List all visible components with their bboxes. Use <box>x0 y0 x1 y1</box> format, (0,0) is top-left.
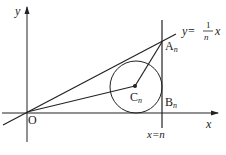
origin-label: O <box>28 113 37 127</box>
svg-text:y=: y= <box>181 24 195 38</box>
point-a-label: An <box>165 39 178 54</box>
svg-text:x: x <box>214 24 221 38</box>
y-axis-label: y <box>14 4 21 18</box>
svg-text:1: 1 <box>206 20 211 30</box>
vertical-line-equation-label: x=n <box>146 128 165 140</box>
center-point-c <box>133 84 137 88</box>
segment-o-c <box>27 86 135 112</box>
diagram-canvas: y x O An Bn Cn y= 1 n x x=n <box>0 0 226 155</box>
geometry-diagram: y x O An Bn Cn y= 1 n x x=n <box>0 0 226 155</box>
point-b-label: Bn <box>165 95 177 110</box>
svg-text:n: n <box>204 32 209 42</box>
point-c-label: Cn <box>130 90 142 105</box>
x-axis-label: x <box>205 117 212 131</box>
line-equation-label: y= 1 n x <box>181 20 221 42</box>
